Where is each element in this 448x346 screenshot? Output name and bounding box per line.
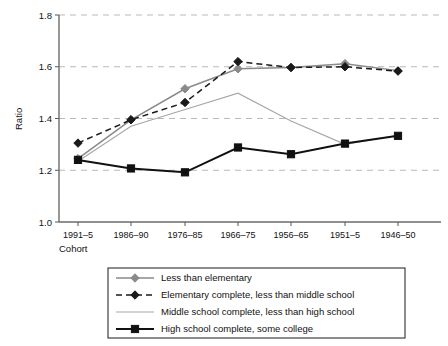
x-tick-label-1: 1986–90	[113, 230, 148, 240]
legend-marker-3	[131, 325, 138, 332]
data-point-1-0	[74, 139, 82, 147]
ratio-by-cohort-chart: 1.01.21.41.61.81991–51986–901976–851966–…	[0, 0, 448, 346]
y-tick-label-1.2: 1.2	[39, 165, 52, 176]
data-point-3-2	[181, 169, 188, 176]
y-tick-label-1.0: 1.0	[39, 217, 52, 228]
data-point-3-6	[394, 132, 401, 139]
x-tick-label-0: 1991–5	[63, 230, 93, 240]
series-3	[74, 132, 401, 176]
x-axis-title: Cohort	[59, 243, 88, 254]
x-tick-label-2: 1976–85	[167, 230, 202, 240]
series-line-3	[78, 136, 398, 172]
series-line-1	[78, 62, 398, 144]
data-point-3-3	[234, 144, 241, 151]
data-point-3-1	[127, 165, 134, 172]
x-tick-label-6: 1946–50	[380, 230, 415, 240]
y-tick-label-1.4: 1.4	[39, 113, 52, 124]
data-point-1-3	[234, 57, 242, 65]
x-tick-label-5: 1951–5	[330, 230, 360, 240]
data-point-1-6	[394, 67, 402, 75]
data-point-3-0	[74, 156, 81, 163]
data-point-3-4	[287, 151, 294, 158]
legend-label-3: High school complete, some college	[161, 323, 313, 334]
data-point-1-4	[287, 63, 295, 71]
legend-label-2: Middle school complete, less than high s…	[161, 306, 354, 317]
legend-label-0: Less than elementary	[161, 272, 252, 283]
y-tick-label-1.6: 1.6	[39, 61, 52, 72]
y-tick-label-1.8: 1.8	[39, 10, 52, 21]
data-point-1-2	[181, 98, 189, 106]
x-tick-label-4: 1956–65	[273, 230, 308, 240]
data-point-3-5	[341, 140, 348, 147]
x-tick-label-3: 1966–75	[220, 230, 255, 240]
chart-canvas: 1.01.21.41.61.81991–51986–901976–851966–…	[0, 0, 448, 346]
data-point-0-2	[181, 85, 189, 93]
legend-label-1: Elementary complete, less than middle sc…	[161, 289, 354, 300]
y-axis-title: Ratio	[13, 108, 24, 130]
